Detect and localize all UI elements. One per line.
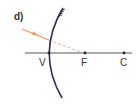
convex-mirror-diagram: d) V F C (0, 0, 136, 108)
focal-point (84, 52, 87, 55)
virtual-ray-extension (49, 40, 83, 53)
focal-label: F (81, 58, 87, 68)
vertex-point (48, 52, 51, 55)
center-label: C (120, 58, 127, 68)
vertex-label: V (39, 58, 46, 68)
part-label: d) (14, 12, 23, 22)
center-of-curvature-point (123, 52, 126, 55)
arrow-icon (32, 31, 38, 35)
